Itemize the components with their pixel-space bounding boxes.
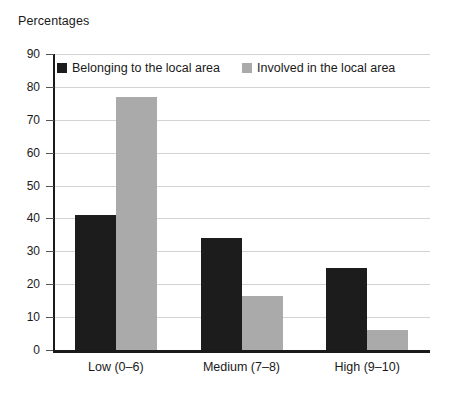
y-tick-mark-80 xyxy=(46,87,54,88)
y-tick-label-90: 90 xyxy=(0,48,40,60)
x-axis-line xyxy=(53,350,430,353)
chart-legend: Belonging to the local areaInvolved in t… xyxy=(57,61,395,75)
gridline-80 xyxy=(53,87,430,88)
gridline-70 xyxy=(53,120,430,121)
legend-swatch-icon-1 xyxy=(242,63,252,73)
y-tick-label-70: 70 xyxy=(0,114,40,126)
legend-item-1: Involved in the local area xyxy=(242,61,395,75)
x-tick-label-2: High (9–10) xyxy=(304,360,430,374)
y-tick-label-20: 20 xyxy=(0,278,40,290)
y-tick-label-30: 30 xyxy=(0,245,40,257)
y-tick-label-0: 0 xyxy=(0,344,40,356)
legend-swatch-icon-0 xyxy=(57,63,67,73)
y-tick-mark-70 xyxy=(46,120,54,121)
bar-1-2 xyxy=(367,330,408,350)
bar-chart: Percentages 9080706050403020100 Low (0–6… xyxy=(0,0,453,399)
y-tick-mark-90 xyxy=(46,54,54,55)
y-tick-mark-60 xyxy=(46,153,54,154)
legend-label-0: Belonging to the local area xyxy=(72,61,220,75)
bar-0-2 xyxy=(326,268,367,350)
y-tick-label-80: 80 xyxy=(0,81,40,93)
y-tick-label-50: 50 xyxy=(0,180,40,192)
bar-1-1 xyxy=(242,296,283,350)
bar-0-0 xyxy=(75,215,116,350)
y-tick-mark-50 xyxy=(46,186,54,187)
y-tick-mark-40 xyxy=(46,218,54,219)
y-tick-label-10: 10 xyxy=(0,311,40,323)
legend-item-0: Belonging to the local area xyxy=(57,61,220,75)
legend-label-1: Involved in the local area xyxy=(257,61,395,75)
y-tick-label-60: 60 xyxy=(0,147,40,159)
y-tick-mark-30 xyxy=(46,251,54,252)
y-tick-mark-10 xyxy=(46,317,54,318)
x-tick-label-1: Medium (7–8) xyxy=(179,360,305,374)
bar-0-1 xyxy=(201,238,242,350)
gridline-90 xyxy=(53,54,430,55)
gridline-50 xyxy=(53,186,430,187)
chart-title: Percentages xyxy=(18,14,89,28)
x-tick-label-0: Low (0–6) xyxy=(53,360,179,374)
y-tick-label-40: 40 xyxy=(0,212,40,224)
y-axis-line xyxy=(53,54,55,351)
y-tick-mark-20 xyxy=(46,284,54,285)
bar-1-0 xyxy=(116,97,157,350)
gridline-60 xyxy=(53,153,430,154)
